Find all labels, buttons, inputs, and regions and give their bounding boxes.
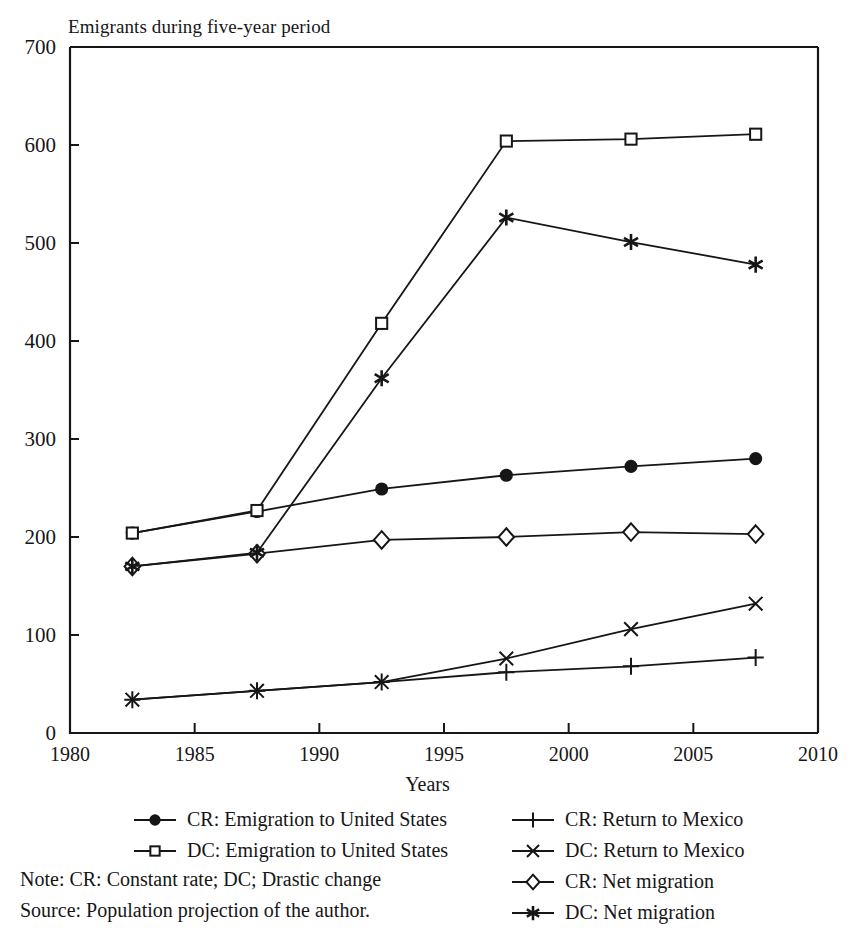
y-axis-tick-label: 0: [0, 721, 56, 746]
data-point-open-diamond: [374, 531, 390, 548]
series-line: [132, 218, 755, 567]
legend-item[interactable]: DC: Emigration to United States: [132, 835, 448, 866]
series-4: [125, 523, 764, 575]
x-axis-tick-label: 2010: [798, 743, 838, 766]
data-point-open-diamond: [499, 528, 515, 545]
y-axis-tick-label: 300: [0, 427, 56, 452]
data-point-plus: [498, 664, 514, 681]
legend-marker-asterisk: [510, 902, 556, 924]
series-line: [132, 459, 755, 533]
plot-area: Emigrants during five-year period 010020…: [0, 0, 855, 760]
x-axis-tick-label: 1990: [299, 743, 339, 766]
y-axis-tick-label: 500: [0, 231, 56, 256]
data-point-filled-circle: [376, 483, 387, 494]
legend-item[interactable]: DC: Net migration: [510, 897, 744, 928]
series-0: [127, 453, 761, 539]
data-point-open-diamond: [748, 525, 764, 542]
note-text: Note: CR: Constant rate; DC; Drastic cha…: [20, 864, 381, 895]
y-axis-tick-label: 600: [0, 133, 56, 158]
y-axis-tick-label: 400: [0, 329, 56, 354]
legend-marker-open-diamond: [510, 871, 556, 893]
legend-marker-open-square: [132, 840, 178, 862]
data-point-open-square: [750, 129, 761, 140]
data-point-open-square: [376, 318, 387, 329]
legend-item[interactable]: CR: Emigration to United States: [132, 804, 448, 835]
source-text: Source: Population projection of the aut…: [20, 895, 381, 926]
legend-item-label: CR: Return to Mexico: [565, 808, 743, 831]
x-axis-tick-label: 2000: [549, 743, 589, 766]
data-point-cross: [749, 597, 763, 611]
data-point-open-diamond: [623, 523, 639, 540]
data-point-open-diamond: [526, 874, 539, 889]
data-point-plus: [526, 812, 540, 827]
series-5: [125, 209, 762, 574]
series-line: [132, 532, 755, 566]
legend-item[interactable]: CR: Net migration: [510, 866, 744, 897]
x-axis-tick-label: 1980: [50, 743, 90, 766]
data-point-open-square: [127, 528, 138, 539]
x-axis-tick-label: 1995: [424, 743, 464, 766]
data-point-filled-circle: [501, 470, 512, 481]
legend-marker-plus: [510, 809, 556, 831]
data-point-filled-circle: [625, 461, 636, 472]
legend-column-left: CR: Emigration to United StatesDC: Emigr…: [132, 804, 448, 866]
legend-marker-cross: [510, 840, 556, 862]
y-axis-tick-label: 100: [0, 623, 56, 648]
series-1: [127, 129, 761, 539]
y-axis-tick-label: 200: [0, 525, 56, 550]
series-line: [132, 134, 755, 533]
data-point-plus: [748, 649, 764, 666]
series-2: [124, 649, 763, 708]
legend-marker-filled-circle: [132, 809, 178, 831]
legend-column-right: CR: Return to MexicoDC: Return to Mexico…: [510, 804, 744, 928]
legend-item-label: DC: Emigration to United States: [187, 839, 448, 862]
data-point-open-square: [150, 846, 159, 855]
legend-item-label: CR: Emigration to United States: [187, 808, 447, 831]
legend-item-label: CR: Net migration: [565, 870, 714, 893]
legend-item-label: DC: Return to Mexico: [565, 839, 744, 862]
chart-svg: [0, 0, 855, 760]
x-axis-label: Years: [0, 773, 855, 796]
axis-frame: [70, 47, 818, 733]
data-point-plus: [623, 658, 639, 675]
data-point-open-square: [251, 505, 262, 516]
data-point-open-square: [501, 136, 512, 147]
x-axis-tick-label: 1985: [175, 743, 215, 766]
legend-item-label: DC: Net migration: [565, 901, 715, 924]
data-point-open-square: [625, 134, 636, 145]
legend-item[interactable]: CR: Return to Mexico: [510, 804, 744, 835]
series-line: [132, 604, 755, 700]
data-point-filled-circle: [150, 815, 159, 824]
series-3: [126, 597, 763, 707]
data-point-filled-circle: [750, 453, 761, 464]
figure-emigration-projection: Emigrants during five-year period 010020…: [0, 0, 855, 944]
legend-item[interactable]: DC: Return to Mexico: [510, 835, 744, 866]
x-axis-tick-label: 2005: [673, 743, 713, 766]
data-point-cross: [624, 622, 638, 636]
figure-notes: Note: CR: Constant rate; DC; Drastic cha…: [20, 864, 381, 926]
y-axis-tick-label: 700: [0, 35, 56, 60]
